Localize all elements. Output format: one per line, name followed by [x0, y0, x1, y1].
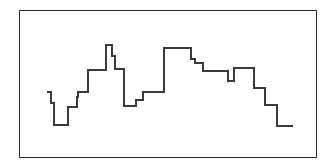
- screenshot-root: [0, 0, 335, 168]
- step-chart: [0, 0, 335, 168]
- step-series-path: [47, 45, 293, 126]
